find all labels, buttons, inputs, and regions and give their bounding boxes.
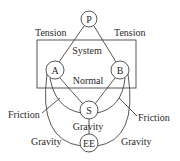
node-a: A [46, 61, 64, 79]
label-system: System [72, 45, 102, 56]
node-a-label: A [51, 65, 59, 76]
node-p-label: P [86, 14, 92, 25]
node-p: P [81, 11, 97, 27]
node-ee-label: EE [83, 138, 95, 149]
force-diagram: P A B S EE Tension Tension System Normal… [0, 0, 180, 161]
label-gravity-left: Gravity [31, 136, 62, 147]
label-tension-left: Tension [35, 27, 67, 38]
friction-left-pointer [42, 98, 60, 113]
label-gravity-middle: Gravity [73, 121, 104, 132]
node-b: B [111, 61, 129, 79]
friction-right-pointer [119, 98, 137, 116]
label-gravity-right: Gravity [121, 136, 152, 147]
label-friction-left: Friction [8, 109, 40, 120]
label-friction-right: Friction [138, 112, 170, 123]
node-s-label: S [86, 105, 92, 116]
node-s: S [80, 101, 98, 119]
edge-p-b [94, 26, 116, 62]
node-ee: EE [80, 134, 98, 152]
label-normal: Normal [73, 75, 104, 86]
label-tension-right: Tension [114, 27, 146, 38]
node-b-label: B [117, 65, 124, 76]
